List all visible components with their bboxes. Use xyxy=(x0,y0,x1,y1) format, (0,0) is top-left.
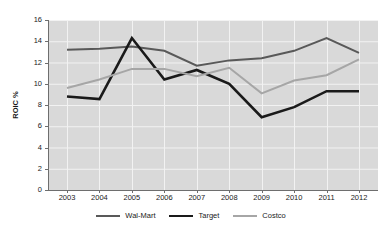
legend-item-costco[interactable]: Costco xyxy=(233,212,285,220)
legend-line-swatch xyxy=(96,215,120,217)
y-axis-tick-label: 12 xyxy=(34,59,42,67)
x-axis-tick-label: 2008 xyxy=(221,194,238,202)
chart-figure: ROIC % 0246810121416 2003200420052006200… xyxy=(0,0,382,239)
y-axis-tick-label: 10 xyxy=(34,80,42,88)
x-axis-tick-label: 2003 xyxy=(59,194,76,202)
x-axis-tick-label: 2010 xyxy=(286,194,303,202)
x-axis-tick-mark xyxy=(359,190,360,193)
legend-line-swatch xyxy=(233,215,257,217)
x-axis-tick-mark xyxy=(197,190,198,193)
x-axis-tick-label: 2004 xyxy=(91,194,108,202)
x-axis-tick-mark xyxy=(229,190,230,193)
legend-label: Wal-Mart xyxy=(125,212,155,220)
legend-item-target[interactable]: Target xyxy=(169,212,219,220)
x-axis-tick-label: 2007 xyxy=(188,194,205,202)
x-axis-tick-mark xyxy=(99,190,100,193)
x-axis-tick-mark xyxy=(294,190,295,193)
x-axis-tick-label: 2011 xyxy=(318,194,334,202)
x-axis-tick-mark xyxy=(327,190,328,193)
y-axis-line xyxy=(48,20,49,191)
x-axis-tick-mark xyxy=(164,190,165,193)
y-axis-tick-label: 2 xyxy=(38,165,42,173)
y-axis-tick-label: 4 xyxy=(38,144,42,152)
y-axis-ticks: 0246810121416 xyxy=(0,0,46,239)
plot-area xyxy=(48,20,378,190)
y-axis-tick-label: 16 xyxy=(34,16,42,24)
series-lines xyxy=(48,20,378,190)
y-axis-tick-label: 14 xyxy=(34,38,42,46)
x-axis-tick-label: 2005 xyxy=(124,194,141,202)
legend-line-swatch xyxy=(169,215,193,217)
series-line-wal-mart xyxy=(67,38,359,66)
y-axis-tick-label: 6 xyxy=(38,123,42,131)
legend-label: Costco xyxy=(262,212,285,220)
x-axis-tick-mark xyxy=(67,190,68,193)
x-axis-tick-label: 2006 xyxy=(156,194,173,202)
y-axis-tick-label: 0 xyxy=(38,186,42,194)
x-axis-line xyxy=(48,190,378,191)
chart-legend: Wal-MartTargetCostco xyxy=(0,212,382,220)
y-axis-tick-label: 8 xyxy=(38,101,42,109)
x-axis-tick-mark xyxy=(132,190,133,193)
x-axis-tick-mark xyxy=(262,190,263,193)
legend-label: Target xyxy=(198,212,219,220)
x-axis-tick-label: 2012 xyxy=(351,194,368,202)
legend-item-wal-mart[interactable]: Wal-Mart xyxy=(96,212,155,220)
x-axis-tick-label: 2009 xyxy=(253,194,270,202)
